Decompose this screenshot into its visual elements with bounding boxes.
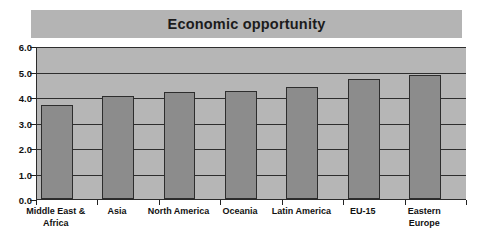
x-axis-tick	[343, 200, 344, 205]
bars-layer	[37, 47, 466, 199]
y-axis-tick-label: 6.0	[2, 42, 32, 53]
bar	[225, 91, 257, 199]
x-axis-tick	[220, 200, 221, 205]
bar-slot	[344, 47, 405, 199]
bar-slot	[221, 47, 282, 199]
y-axis-tick-label: 4.0	[2, 93, 32, 104]
y-axis-tick-label: 2.0	[2, 144, 32, 155]
x-axis-tick	[405, 200, 406, 205]
bar-slot	[160, 47, 221, 199]
bar	[41, 105, 73, 199]
y-axis-tick	[30, 175, 36, 176]
plot-area	[36, 47, 466, 200]
y-axis-tick-label: 3.0	[2, 118, 32, 129]
y-axis-tick	[30, 124, 36, 125]
y-axis-tick	[30, 149, 36, 150]
x-axis-tick-label: Eastern Europe	[381, 206, 468, 229]
bar	[409, 75, 441, 199]
bar-slot	[283, 47, 344, 199]
x-axis-tick	[159, 200, 160, 205]
bar	[164, 92, 196, 199]
chart-title-banner: Economic opportunity	[31, 10, 462, 38]
bar-slot	[37, 47, 98, 199]
y-axis-tick	[30, 47, 36, 48]
y-axis-tick-label: 1.0	[2, 169, 32, 180]
x-axis-tick	[282, 200, 283, 205]
y-axis-tick-label: 5.0	[2, 67, 32, 78]
chart-title: Economic opportunity	[168, 16, 326, 32]
x-axis-tick	[36, 200, 37, 205]
x-axis-tick	[97, 200, 98, 205]
bar-slot	[406, 47, 467, 199]
y-axis-tick	[30, 98, 36, 99]
x-axis-tick	[466, 200, 467, 205]
bar	[348, 79, 380, 199]
bar-chart: Economic opportunity 0.01.02.03.04.05.06…	[0, 0, 479, 243]
bar-slot	[98, 47, 159, 199]
y-axis-tick	[30, 73, 36, 74]
bar	[102, 96, 134, 199]
bar	[286, 87, 318, 199]
y-axis-tick-label: 0.0	[2, 195, 32, 206]
